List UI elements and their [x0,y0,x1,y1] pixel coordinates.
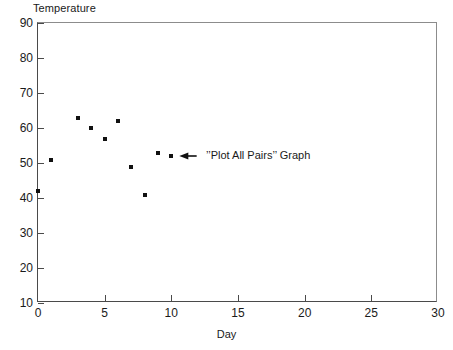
plot-area: 90 80 70 60 50 40 30 20 10 0 5 10 15 20 … [37,22,437,302]
x-tick-label-10: 10 [165,306,178,320]
y-tick-label-80: 80 [20,51,33,65]
annotation-arrow [38,23,438,303]
x-tick-label-20: 20 [298,306,311,320]
y-tick-label-50: 50 [20,156,33,170]
x-axis-title: Day [0,328,453,340]
y-tick-label-60: 60 [20,121,33,135]
x-tick-label-30: 30 [431,306,444,320]
annotation-label: ’’Plot All Pairs’’ Graph [206,149,310,161]
y-tick-10 [38,303,44,304]
y-tick-label-90: 90 [20,16,33,30]
y-tick-label-20: 20 [20,261,33,275]
y-tick-label-40: 40 [20,191,33,205]
x-tick-label-5: 5 [101,306,108,320]
x-tick-label-25: 25 [365,306,378,320]
x-tick-label-0: 0 [35,306,42,320]
y-tick-label-30: 30 [20,226,33,240]
x-tick-label-15: 15 [231,306,244,320]
scatter-chart-figure: Temperature 90 80 70 60 50 40 30 20 10 0… [0,0,453,350]
y-tick-label-70: 70 [20,86,33,100]
y-tick-label-10: 10 [20,296,33,310]
y-axis-title: Temperature [33,2,96,14]
